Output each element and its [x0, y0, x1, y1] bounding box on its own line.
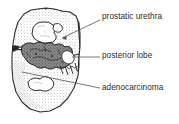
urethral-branch-lumen — [53, 23, 63, 32]
lower-lobe-cavity — [28, 77, 54, 92]
label-prostatic-urethra: prostatic urethra — [102, 12, 162, 21]
label-adenocarcinoma: adenocarcinoma — [102, 83, 163, 92]
label-posterior-lobe: posterior lobe — [102, 51, 152, 60]
prostatic-urethra-lumen — [32, 22, 56, 43]
prostate-anatomy-figure: prostatic urethra posterior lobe adenoca… — [0, 0, 179, 124]
